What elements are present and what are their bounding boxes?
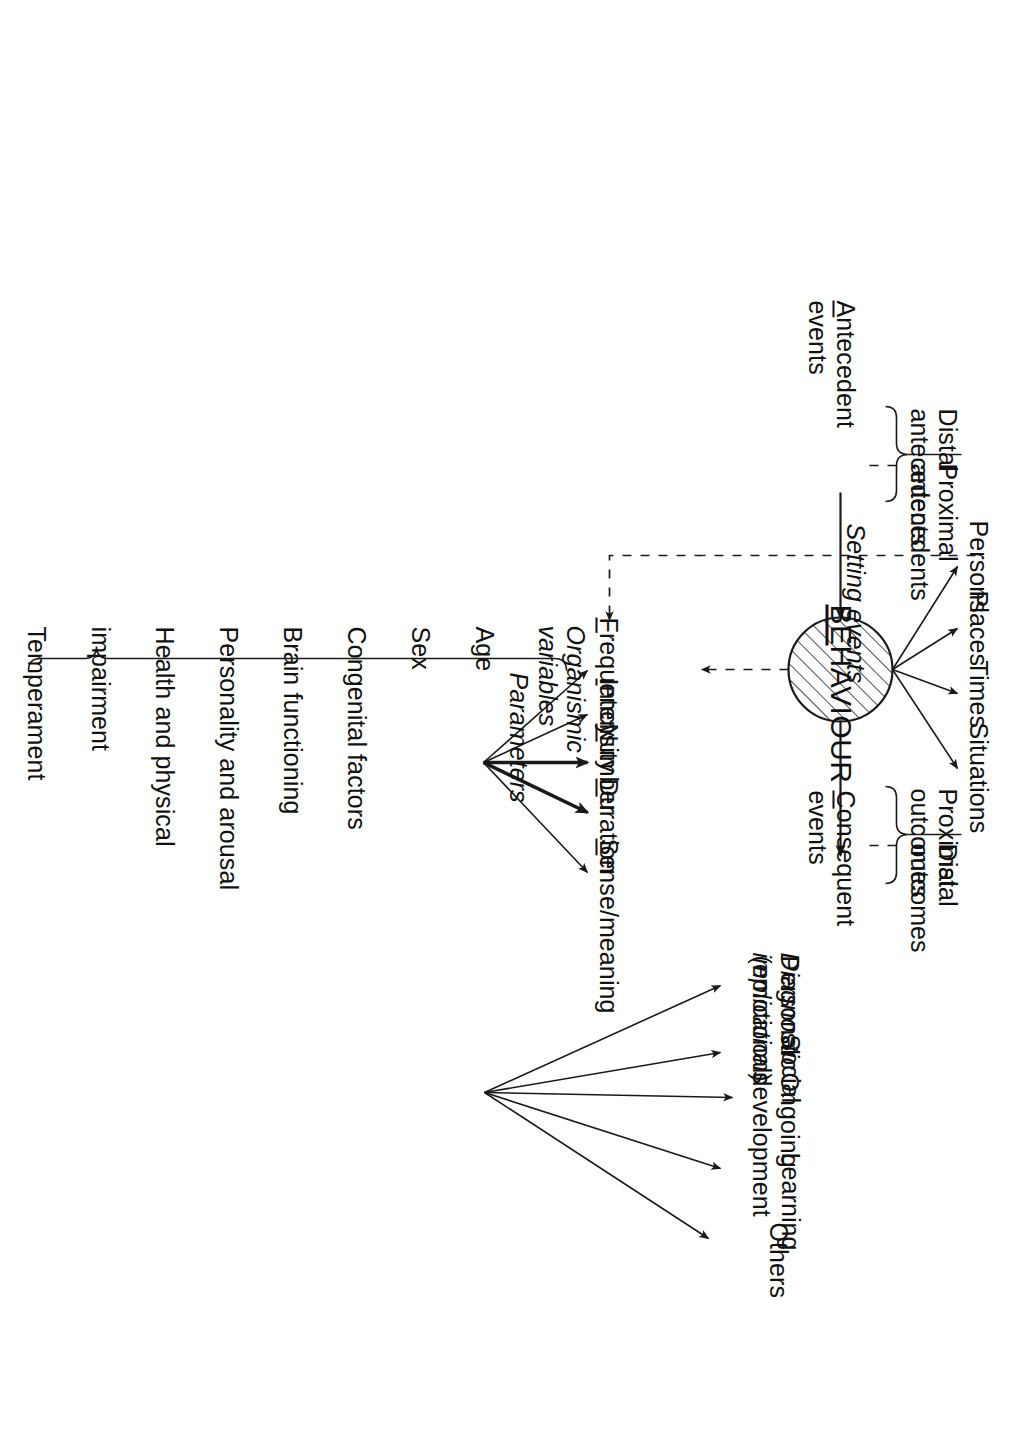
antecedent-rest: ntecedent	[831, 317, 859, 428]
organismic-variables-label: Organismic variables	[533, 625, 589, 752]
parameters-label: Parameters	[504, 672, 531, 802]
distal-outcomes-line1: Distal	[933, 843, 961, 906]
diagnostic-ongoing-line2: development	[747, 1072, 775, 1216]
parameter-intensity-initial: I	[594, 678, 622, 685]
distal-outcomes-line2: outcomes	[905, 843, 933, 952]
organismic-variable-item: impairment	[86, 626, 113, 890]
proximal-antecedents-label: Proximal antecedents	[905, 463, 961, 600]
organismic-variable-item: Health and physical	[150, 626, 177, 890]
parameter-sense-meaning: Sense/meaning	[594, 838, 621, 1013]
consequent-events-line2: events	[803, 790, 831, 864]
setting-event-times: Times	[964, 660, 991, 728]
antecedent-initial: A	[831, 300, 859, 317]
consequent-rest: onsequent	[831, 808, 859, 926]
proximal-antecedents-line2: antecedents	[905, 463, 933, 600]
diagram-canvas: Antecedent events Distal antecedents Pro…	[0, 0, 1013, 1451]
organismic-variable-item: Personality and arousal	[214, 626, 241, 890]
organismic-variable-item: Brain functioning	[278, 626, 305, 890]
organismic-variable-item: Temperament	[22, 626, 49, 890]
parameter-duration-initial: D	[594, 778, 622, 796]
organismic-variables-list: AgeSexCongenital factorsBrain functionin…	[101, 626, 497, 890]
organismic-variable-item: Congenital factors	[342, 626, 369, 890]
distal-antecedents-line1: Distal	[933, 408, 961, 471]
parameter-sense-initial: S	[594, 838, 622, 855]
behaviour-underlined-prefix: BE	[824, 604, 857, 645]
organismic-variable-item: Age	[470, 626, 497, 890]
antecedent-events-line2: events	[803, 300, 831, 374]
distal-outcomes-label: Distal outcomes	[905, 843, 961, 952]
setting-event-places: Places	[964, 590, 991, 666]
behaviour-rest: HAVIOUR	[824, 645, 857, 783]
parameter-frequency-initial: F	[594, 617, 622, 632]
setting-event-situations: Situations	[964, 722, 991, 833]
parameter-sense-rest: ense/meaning	[594, 855, 622, 1013]
proximal-antecedents-line1: Proximal	[933, 463, 961, 561]
consequent-events-label: Consequent events	[803, 790, 859, 926]
organismic-variable-item: Sex	[406, 626, 433, 890]
organismic-label-line2: variables	[533, 625, 561, 726]
diagnostic-item-others: Others	[764, 1222, 791, 1298]
figure-page: Antecedent events Distal antecedents Pro…	[0, 0, 1013, 1451]
consequent-initial: C	[831, 790, 859, 808]
antecedent-events-label: Antecedent events	[803, 300, 859, 428]
parameter-number-initial: N	[594, 723, 622, 741]
organismic-label-line1: Organismic	[561, 625, 589, 752]
behaviour-label: BEHAVIOUR	[824, 604, 856, 783]
diagnostic-personal-line2: (emotional)	[747, 955, 775, 1081]
